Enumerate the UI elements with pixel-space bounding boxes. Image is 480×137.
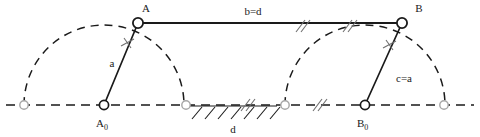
link-rocker-c xyxy=(365,23,402,105)
label-point-B0-sub: 0 xyxy=(364,123,368,132)
ghost-joint-arc-b-left xyxy=(281,101,289,109)
linkage-diagram-canvas: A B A0 B0 a b=d c=a d xyxy=(0,0,480,137)
label-link-a: a xyxy=(110,57,115,69)
label-point-A: A xyxy=(142,2,150,14)
cross-tick-rocker-c-icon xyxy=(383,40,396,50)
label-point-B: B xyxy=(415,2,422,14)
label-point-A0: A0 xyxy=(96,117,108,132)
arc-crank-a-path xyxy=(24,25,184,105)
ghost-joint-arc-a-left xyxy=(20,101,28,109)
double-slash-tick-coupler-b-icon xyxy=(296,20,310,32)
label-point-A0-sub: 0 xyxy=(104,123,108,132)
joint-B0-pin xyxy=(360,100,369,109)
diagram-svg: A B A0 B0 a b=d c=a d xyxy=(0,0,480,137)
joint-A0-pin xyxy=(99,100,108,109)
ghost-joint-arc-b-right xyxy=(440,101,448,109)
ground-hatch xyxy=(190,106,280,119)
label-link-ca: c=a xyxy=(396,72,412,84)
arc-rocker-c-path xyxy=(285,25,445,105)
label-link-bd: b=d xyxy=(244,5,262,17)
joint-B-pin xyxy=(397,18,407,28)
label-point-B0-main: B xyxy=(357,117,364,129)
joint-A-pin xyxy=(133,18,143,28)
label-point-A0-main: A xyxy=(96,117,104,129)
label-point-B0: B0 xyxy=(357,117,368,132)
ghost-joint-arc-a-right xyxy=(182,101,190,109)
label-link-d: d xyxy=(230,123,236,135)
